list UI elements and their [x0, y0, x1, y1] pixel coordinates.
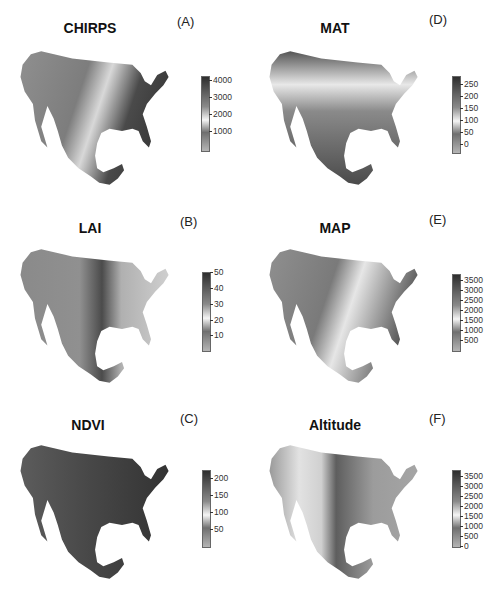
map-mat — [257, 46, 427, 191]
panel-letter: (F) — [429, 411, 446, 426]
colorbar — [452, 76, 461, 154]
panel-title: Altitude — [275, 417, 395, 433]
colorbar — [202, 470, 211, 548]
panel-map: MAP (E) 3500 3000 2500 2000 1500 1000 50… — [247, 200, 494, 399]
panel-letter: (D) — [429, 12, 447, 27]
panel-chirps: CHIRPS (A) 4000 3000 2000 1000 — [0, 0, 247, 199]
map-chirps — [8, 46, 178, 191]
panel-letter: (A) — [177, 14, 194, 29]
map-precip — [257, 244, 427, 389]
panel-mat: MAT (D) 250 200 150 100 50 0 — [247, 0, 494, 199]
panel-letter: (B) — [180, 214, 197, 229]
map-ndvi — [8, 440, 178, 585]
colorbar — [202, 272, 211, 352]
panel-lai: LAI (B) 50 40 30 20 10 — [0, 200, 247, 399]
panel-altitude: Altitude (F) 3500 3000 2500 2000 1500 10… — [247, 400, 494, 597]
panel-title: NDVI — [28, 417, 148, 433]
panel-letter: (E) — [429, 212, 446, 227]
panel-letter: (C) — [180, 411, 198, 426]
panel-title: CHIRPS — [30, 20, 150, 36]
panel-title: LAI — [30, 220, 150, 236]
panel-title: MAT — [275, 20, 395, 36]
panel-title: MAP — [275, 220, 395, 236]
map-altitude — [257, 440, 427, 585]
map-lai — [8, 244, 178, 389]
panel-ndvi: NDVI (C) 200 150 100 50 — [0, 400, 247, 597]
